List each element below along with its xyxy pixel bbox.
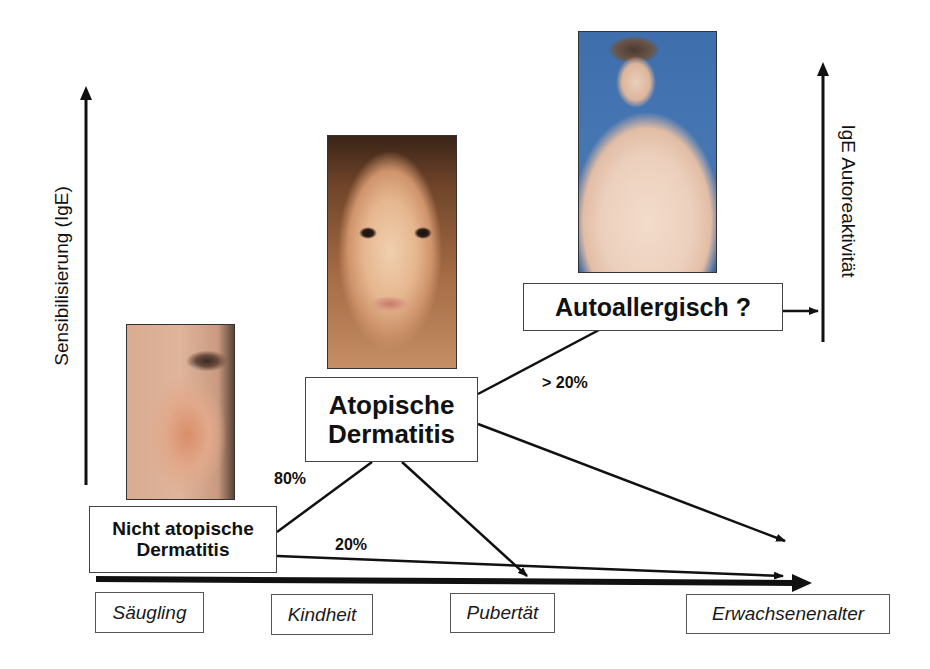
- adult-photo: [578, 31, 717, 273]
- percent-to-autoallergic: > 20%: [542, 374, 588, 392]
- right-axis-label: IgE Autoreaktivität: [837, 111, 859, 291]
- node-atopic-line1: Atopische: [329, 391, 455, 419]
- node-atopic-dermatitis: Atopische Dermatitis: [305, 377, 478, 462]
- node-atopic-line2: Dermatitis: [328, 420, 455, 448]
- stage-childhood: Kindheit: [271, 594, 373, 635]
- node-nonatopic-line1: Nicht atopische: [112, 519, 253, 540]
- stage-puberty: Pubertät: [450, 593, 555, 633]
- child-photo: [327, 135, 457, 369]
- right-axis-arrow: [817, 62, 829, 342]
- percent-to-atopic: 80%: [274, 470, 306, 488]
- left-axis-arrow: [80, 86, 92, 485]
- arrow-atopic-to-adult: [478, 424, 785, 541]
- node-nonatopic-line2: Dermatitis: [137, 540, 230, 561]
- node-autoallergic: Autoallergisch ?: [523, 283, 783, 331]
- node-autoallergic-label: Autoallergisch ?: [555, 294, 751, 321]
- left-axis-label: Sensibilisierung (IgE): [51, 171, 73, 381]
- node-nonatopic-dermatitis: Nicht atopische Dermatitis: [89, 506, 277, 573]
- arrow-nonatopic-to-adult: [277, 556, 783, 576]
- timeline-arrow: [96, 574, 812, 592]
- arrow-atopic-to-puberty: [402, 462, 527, 576]
- stage-adulthood: Erwachsenenalter: [686, 594, 890, 634]
- infant-photo: [126, 324, 235, 500]
- percent-to-adult: 20%: [335, 536, 367, 554]
- stage-infancy: Säugling: [95, 592, 204, 633]
